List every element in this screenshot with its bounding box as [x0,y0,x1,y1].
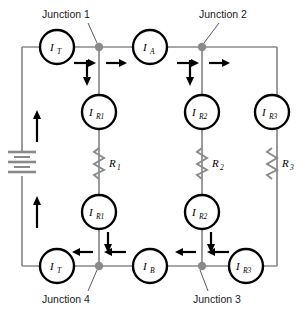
meter-ir3-top-sub: R3 [268,112,278,121]
resistor-r3-label-main: R [281,157,289,169]
meter-ia-sub: A [149,47,155,56]
meter-ir3-bottom[interactable]: I R3 [229,249,263,283]
current-arrow-left-rail-lower [33,196,41,228]
resistor-r2-label-sub: 2 [220,163,224,172]
junction-4-dot[interactable] [95,262,103,270]
junction-1-dot[interactable] [95,43,103,51]
junction-3-label: Junction 3 [193,293,241,305]
junction-4-label: Junction 4 [42,293,90,305]
junction-4-leader [88,270,97,291]
meter-ir1-bottom[interactable]: I R1 [82,195,116,229]
meter-it-top[interactable]: I T [40,30,74,64]
resistor-r2-label-main: R [211,157,219,169]
junction-1-label: Junction 1 [42,8,90,20]
current-arrow-top-left-j2 [177,59,199,67]
resistor-r3-symbol [267,148,277,179]
resistor-r1-label: R 1 [108,157,121,172]
meter-ir1-bottom-sub: R1 [95,212,104,221]
current-arrow-left-rail-upper [33,110,41,142]
current-arrow-bottom-left-of-j4 [72,248,93,256]
meter-ia[interactable]: I A [133,30,167,64]
resistor-r3-label-sub: 3 [289,163,294,172]
meter-ir1-top[interactable]: I R1 [82,95,116,129]
junction-3-leader [200,270,208,291]
current-arrow-top-right-j2 [209,59,230,67]
circuit-schematic: R 1 R 2 R 3 [0,0,300,314]
junction-3-dot[interactable] [198,262,206,270]
battery-symbol [8,152,36,172]
meter-it-bottom[interactable]: I T [40,249,74,283]
meter-ir3-top[interactable]: I R3 [255,95,289,129]
junction-2-label: Junction 2 [199,8,247,20]
resistor-r2-label: R 2 [211,157,224,172]
meter-ir2-bottom-sub: R2 [198,212,208,221]
meter-ib-sub: B [150,266,155,275]
meter-ir3-bottom-sub: R3 [242,266,252,275]
meter-ir2-top-sub: R2 [198,112,208,121]
junction-2-dot[interactable] [198,43,206,51]
wire-network [22,47,277,266]
resistor-r1-label-main: R [108,157,116,169]
junction-2-leader [204,23,219,43]
circuit-diagram-canvas: R 1 R 2 R 3 [0,0,300,314]
current-arrow-top-right-j1 [106,59,127,67]
resistor-r1-label-sub: 1 [117,163,121,172]
current-arrow-bottom-left-of-j3 [175,248,196,256]
resistor-r3-label: R 3 [281,157,294,172]
meter-ib[interactable]: I B [133,249,167,283]
meter-ir2-top[interactable]: I R2 [185,95,219,129]
meter-ir2-bottom[interactable]: I R2 [185,195,219,229]
junction-1-leader [88,23,97,43]
meter-ir1-top-sub: R1 [95,112,104,121]
current-arrow-top-left-j1 [74,59,96,67]
